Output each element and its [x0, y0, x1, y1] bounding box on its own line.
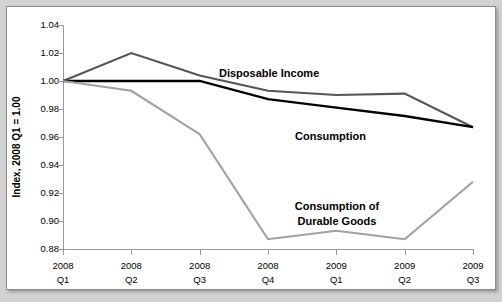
x-tick-label-quarter: Q1	[57, 274, 70, 285]
y-axis-title: Index, 2008 Q1 = 1.00	[11, 96, 22, 197]
x-tick-label-year: 2008	[52, 260, 73, 271]
y-tick-label: 1.00	[41, 75, 60, 86]
y-tick-label: 0.94	[41, 159, 60, 170]
y-tick-label: 0.96	[41, 131, 60, 142]
y-tick-label: 0.90	[41, 215, 60, 226]
series-label-durable-goods: Consumption of	[295, 200, 380, 212]
y-tick-label: 1.04	[41, 19, 60, 30]
chart-screenshot-root: Index, 2008 Q1 = 1.00 1.04 1.02 1.00 0.9…	[0, 0, 502, 302]
x-tick-label-quarter: Q2	[398, 274, 411, 285]
series-label-disposable-income: Disposable Income	[219, 67, 319, 79]
y-tick-label: 0.88	[41, 243, 60, 254]
chart-series-layer	[63, 53, 473, 239]
series-line	[63, 81, 473, 127]
chart-frame: Index, 2008 Q1 = 1.00 1.04 1.02 1.00 0.9…	[6, 6, 496, 290]
x-tick-label-year: 2008	[257, 260, 278, 271]
y-tick-label: 0.98	[41, 103, 60, 114]
line-chart: Index, 2008 Q1 = 1.00 1.04 1.02 1.00 0.9…	[7, 7, 495, 289]
y-tick-label: 0.92	[41, 187, 60, 198]
x-tick-label-quarter: Q3	[193, 274, 206, 285]
x-tick-label-quarter: Q2	[125, 274, 138, 285]
x-tick-label-year: 2008	[121, 260, 142, 271]
x-tick-label-year: 2009	[326, 260, 347, 271]
chart-axes	[57, 25, 474, 255]
x-tick-label-quarter: Q4	[262, 274, 275, 285]
x-tick-label-quarter: Q1	[330, 274, 343, 285]
series-label-durable-goods-line2: Durable Goods	[298, 215, 377, 227]
x-tick-label-year: 2009	[394, 260, 415, 271]
x-tick-label-quarter: Q3	[467, 274, 480, 285]
y-tick-label: 1.02	[41, 47, 60, 58]
series-line	[63, 81, 473, 239]
series-label-consumption: Consumption	[295, 130, 366, 142]
x-tick-label-year: 2009	[462, 260, 483, 271]
x-axis-labels: 2008Q12008Q22008Q32008Q42009Q12009Q22009…	[52, 260, 483, 285]
x-tick-label-year: 2008	[189, 260, 210, 271]
